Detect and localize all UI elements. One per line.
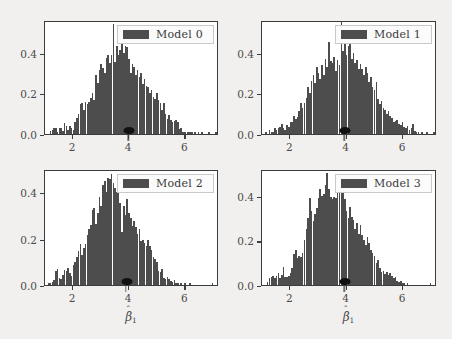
x-axis-label: ˆβ1 bbox=[343, 310, 355, 325]
beta-symbol: ˆβ bbox=[343, 310, 350, 324]
x-axis-tick bbox=[402, 286, 403, 290]
legend-label: Model 1 bbox=[374, 28, 421, 41]
x-axis-tick bbox=[346, 286, 347, 290]
y-axis-tick-label: 0.4 bbox=[221, 191, 254, 203]
legend-color-swatch bbox=[341, 179, 367, 188]
y-axis-tick-label: 0.0 bbox=[221, 280, 254, 292]
legend-color-swatch bbox=[341, 30, 367, 39]
legend-label: Model 2 bbox=[156, 177, 203, 190]
histogram-panel-3: 0.00.20.4246ˆβ1Model 3 bbox=[0, 0, 452, 339]
x-axis-tick-label: 6 bbox=[399, 292, 406, 304]
histogram-bar bbox=[407, 283, 409, 285]
legend-label: Model 3 bbox=[374, 177, 421, 190]
y-axis-tick bbox=[257, 197, 261, 198]
x-axis-tick bbox=[289, 286, 290, 290]
beta-subscript: 1 bbox=[350, 316, 355, 325]
y-axis-tick-label: 0.2 bbox=[221, 235, 254, 247]
true-value-marker bbox=[340, 278, 351, 285]
x-axis-tick-label: 4 bbox=[342, 292, 349, 304]
legend-1: Model 1 bbox=[335, 25, 432, 44]
y-axis-tick bbox=[257, 286, 261, 287]
hat-accent-icon: ˆ bbox=[343, 304, 348, 315]
histogram-bar bbox=[403, 283, 405, 285]
histogram-bar bbox=[430, 283, 432, 285]
x-axis-tick-label: 2 bbox=[286, 292, 293, 304]
legend-color-swatch bbox=[123, 30, 149, 39]
figure-canvas: 0.00.20.4246Model 00.00.20.4246Model 10.… bbox=[0, 0, 452, 339]
legend-color-swatch bbox=[123, 179, 149, 188]
legend-3: Model 3 bbox=[335, 174, 432, 193]
y-axis-tick bbox=[257, 241, 261, 242]
legend-label: Model 0 bbox=[156, 28, 203, 41]
legend-2: Model 2 bbox=[117, 174, 214, 193]
legend-0: Model 0 bbox=[117, 25, 214, 44]
